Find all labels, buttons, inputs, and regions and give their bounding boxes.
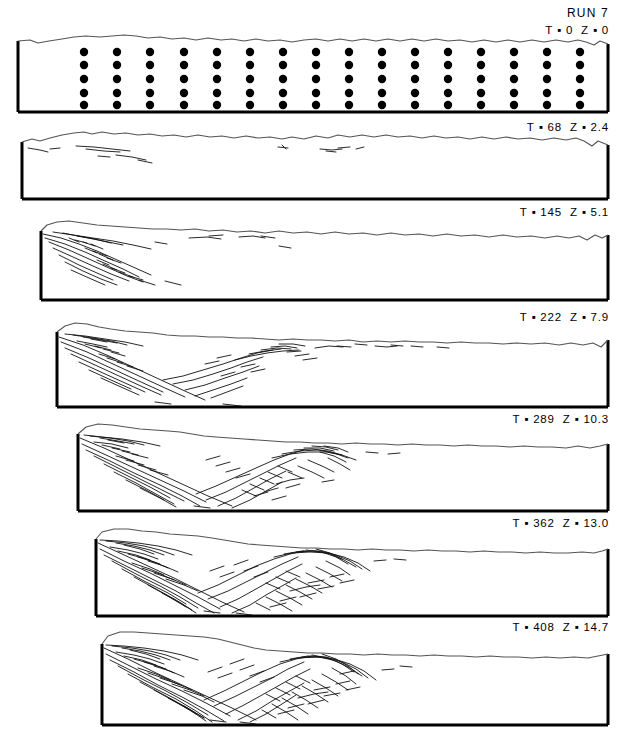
panel-1-surface-line [18, 35, 608, 45]
figure-root: RUN 7 T ▪ 0 Z ▪ 0 [0, 0, 627, 732]
run-label: RUN 7 [567, 6, 609, 20]
panel-2 [20, 130, 610, 202]
panel-2-surface-line [22, 132, 608, 146]
panel-4 [55, 320, 610, 410]
panel-5-surface-line [78, 424, 608, 448]
panel-6 [94, 527, 610, 619]
panel-6-section [94, 527, 610, 619]
panel-7-section [100, 630, 610, 728]
panel-1-marker-grid [80, 48, 584, 109]
panel-3-section [39, 218, 610, 303]
panel-3-fault-traces [43, 232, 291, 285]
panel-4-fault-traces [59, 334, 449, 406]
panel-4-surface-line [57, 323, 608, 347]
panel-5-section [76, 422, 610, 514]
panel-7 [100, 630, 610, 728]
panel-4-section [55, 320, 610, 410]
panel-6-fault-traces [98, 540, 406, 615]
panel-7-fault-traces [104, 645, 412, 724]
panel-1 [16, 33, 610, 115]
panel-2-fault-traces [28, 145, 364, 163]
panel-1-section [16, 33, 610, 115]
panel-3 [39, 218, 610, 303]
panel-5-fault-traces [80, 435, 400, 508]
panel-3-label: T ▪ 145 Z ▪ 5.1 [520, 206, 609, 218]
panel-5 [76, 422, 610, 514]
panel-2-section [20, 130, 610, 202]
panel-3-surface-line [41, 221, 608, 240]
